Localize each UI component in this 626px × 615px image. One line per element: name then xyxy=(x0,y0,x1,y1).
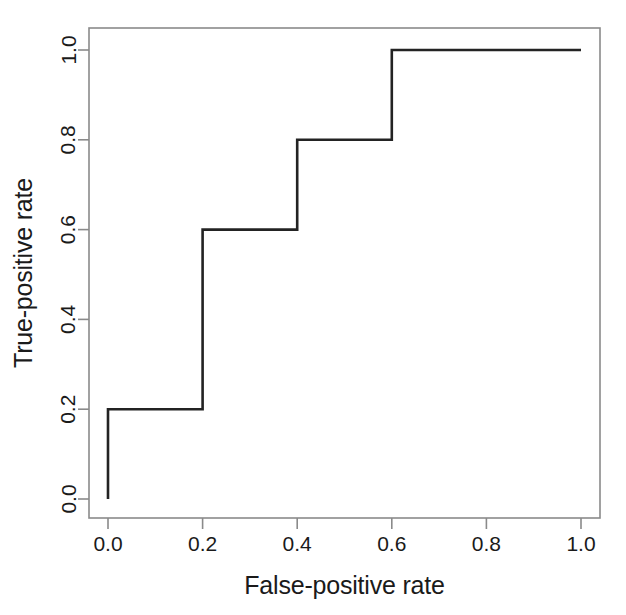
x-axis-ticks xyxy=(108,518,581,529)
y-axis-title: True-positive rate xyxy=(9,178,37,368)
x-tick-label: 1.0 xyxy=(566,532,595,555)
x-axis-tick-labels: 0.00.20.40.60.81.0 xyxy=(93,532,595,555)
roc-plot-svg: 0.00.20.40.60.81.0 0.00.20.40.60.81.0 Fa… xyxy=(0,0,626,615)
y-tick-label: 0.2 xyxy=(57,395,80,424)
x-axis-title: False-positive rate xyxy=(244,571,444,599)
y-tick-label: 0.6 xyxy=(57,215,80,244)
roc-curve-line xyxy=(108,50,581,499)
roc-chart-figure: 0.00.20.40.60.81.0 0.00.20.40.60.81.0 Fa… xyxy=(0,0,626,615)
y-tick-label: 0.8 xyxy=(57,125,80,154)
y-axis-tick-labels: 0.00.20.40.60.81.0 xyxy=(57,35,80,513)
x-tick-label: 0.4 xyxy=(283,532,313,555)
x-tick-label: 0.0 xyxy=(93,532,122,555)
x-tick-label: 0.8 xyxy=(472,532,501,555)
y-tick-label: 1.0 xyxy=(57,35,80,64)
y-axis-ticks xyxy=(78,50,89,499)
plot-border xyxy=(89,28,600,518)
x-tick-label: 0.2 xyxy=(188,532,217,555)
y-tick-label: 0.4 xyxy=(57,304,80,334)
x-tick-label: 0.6 xyxy=(377,532,406,555)
y-tick-label: 0.0 xyxy=(57,484,80,513)
